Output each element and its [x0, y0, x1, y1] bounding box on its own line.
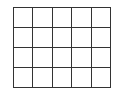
grid-cell: [53, 48, 72, 68]
grid-cell: [33, 68, 52, 88]
grid-cell: [14, 28, 33, 48]
grid-cell: [53, 8, 72, 28]
grid-cell: [92, 48, 111, 68]
grid-cell: [33, 48, 52, 68]
grid-cell: [72, 8, 91, 28]
grid-cell: [53, 68, 72, 88]
grid-cell: [14, 68, 33, 88]
grid-cell: [72, 68, 91, 88]
grid-cell: [72, 28, 91, 48]
grid-cell: [33, 28, 52, 48]
grid-cell: [92, 68, 111, 88]
grid-cell: [72, 48, 91, 68]
grid-cell: [14, 8, 33, 28]
empty-grid: [13, 7, 111, 88]
grid-cell: [92, 28, 111, 48]
grid-cell: [92, 8, 111, 28]
grid-cell: [53, 28, 72, 48]
grid-cell: [14, 48, 33, 68]
grid-cell: [33, 8, 52, 28]
